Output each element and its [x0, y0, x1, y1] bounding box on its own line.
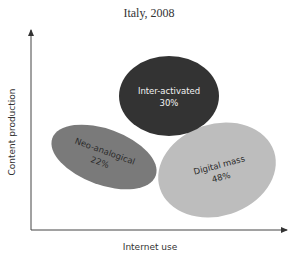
y-axis-label: Content production: [7, 89, 17, 176]
x-axis-label: Internet use: [123, 242, 178, 252]
diagram-title: Italy, 2008: [123, 6, 174, 20]
segment-inter-activated-value: 30%: [160, 98, 179, 108]
segment-inter-activated-shape: [119, 56, 219, 136]
segment-inter-activated: Inter-activated 30%: [119, 56, 219, 136]
segmentation-diagram: Italy, 2008 Internet use Content product…: [0, 0, 299, 253]
segment-inter-activated-name: Inter-activated: [138, 86, 200, 96]
